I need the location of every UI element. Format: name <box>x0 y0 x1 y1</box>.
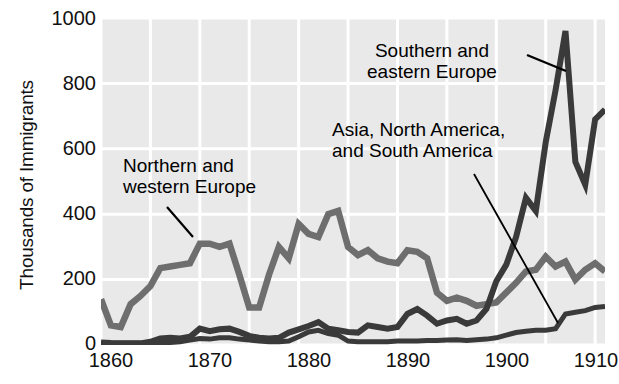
y-tick-200: 200 <box>22 268 96 288</box>
series-line-0 <box>101 211 605 327</box>
x-tick-1870: 1870 <box>188 349 233 371</box>
annotation-asia-americas: Asia, North America, and South America <box>332 119 505 161</box>
annotation-asia-line1: Asia, North America, <box>332 119 505 140</box>
immigration-line-chart: Thousands of Immigrants 1000 800 600 400… <box>0 0 619 384</box>
annotation-nw-line2: western Europe <box>123 176 256 197</box>
y-tick-400: 400 <box>22 203 96 223</box>
annotation-southern-eastern-europe: Southern and eastern Europe <box>367 40 497 82</box>
x-tick-1900: 1900 <box>485 349 530 371</box>
annotation-northern-western-europe: Northern and western Europe <box>123 155 256 197</box>
x-tick-1910: 1910 <box>574 349 619 371</box>
x-tick-1860: 1860 <box>89 349 134 371</box>
x-tick-1890: 1890 <box>386 349 431 371</box>
y-tick-600: 600 <box>22 138 96 158</box>
annotation-asia-line2: and South America <box>332 140 505 161</box>
annotation-nw-line1: Northern and <box>123 155 256 176</box>
x-axis-tick-labels: 1860 1870 1880 1890 1900 1910 <box>0 349 619 379</box>
y-tick-1000: 1000 <box>22 8 96 28</box>
annotation-se-line1: Southern and <box>367 40 497 61</box>
annotation-se-line2: eastern Europe <box>367 61 497 82</box>
y-tick-800: 800 <box>22 73 96 93</box>
y-axis-tick-labels: 1000 800 600 400 200 0 <box>22 0 96 384</box>
x-tick-1880: 1880 <box>287 349 332 371</box>
